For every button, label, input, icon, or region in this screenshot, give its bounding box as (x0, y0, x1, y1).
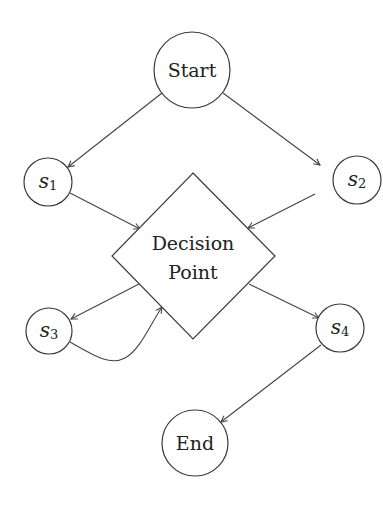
edge-s1-to-decision (70, 193, 140, 229)
edge-start-to-s2 (223, 93, 320, 165)
node-end: End (162, 410, 228, 476)
node-s4: s4 (316, 304, 364, 352)
flowchart-diagram: Start s1 s2 Decision Point s3 s4 E (0, 0, 383, 505)
s1-label-base: s (39, 169, 49, 193)
edge-start-to-s1 (68, 93, 162, 167)
s4-label-base: s (331, 315, 341, 339)
node-start: Start (154, 32, 230, 108)
edge-decision-to-s4 (249, 284, 319, 318)
edge-decision-to-s3 (71, 284, 139, 319)
s2-label-base: s (348, 167, 358, 191)
node-decision: Decision Point (112, 173, 275, 339)
node-s2: s2 (333, 156, 381, 204)
start-label: Start (168, 59, 217, 81)
s4-label-sub: 4 (341, 324, 349, 339)
s3-label-sub: 3 (50, 327, 58, 342)
decision-label-line1: Decision (152, 232, 235, 254)
decision-label-line2: Point (168, 261, 218, 283)
s1-label-sub: 1 (49, 178, 57, 193)
s3-label-base: s (40, 318, 50, 342)
edge-s2-to-decision (248, 194, 315, 228)
end-label: End (176, 432, 214, 454)
s2-label-sub: 2 (358, 176, 366, 191)
decision-diamond (112, 173, 275, 339)
edge-s3-to-decision-curved (70, 307, 162, 361)
node-s1: s1 (24, 158, 72, 206)
node-s3: s3 (26, 308, 72, 354)
edge-s4-to-end (221, 345, 321, 422)
